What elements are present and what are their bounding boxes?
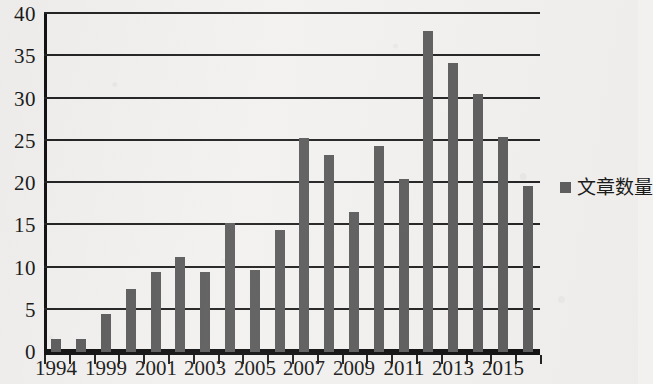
bar [324,155,334,352]
bar [76,339,86,352]
bar [51,339,61,352]
x-tick-label: 2015 [482,358,524,379]
bar [448,63,458,352]
bar [225,223,235,352]
x-tick-label: 2011 [383,358,424,379]
y-tick-label: 10 [14,257,36,278]
bar [523,186,533,352]
y-tick-label: 25 [14,130,36,151]
bars-layer [44,14,540,352]
y-tick-label: 15 [14,215,36,236]
x-tick-label: 2013 [432,358,474,379]
x-tick-label: 2001 [135,358,177,379]
y-axis: 0510152025303540 [0,0,36,384]
bar [151,272,161,352]
bar [200,272,210,352]
bar [423,31,433,352]
bar [126,289,136,352]
bar [299,138,309,352]
bar [399,179,409,352]
plot-area [44,14,540,352]
bar [275,230,285,352]
legend-label: 文章数量 [577,178,653,197]
y-tick-label: 40 [14,4,36,25]
bar [101,314,111,352]
x-tick-label: 2009 [333,358,375,379]
y-tick-label: 35 [14,46,36,67]
x-tick-label: 2005 [234,358,276,379]
x-tick-label: 2003 [184,358,226,379]
square-marker-icon [560,182,571,193]
y-tick-label: 5 [25,299,36,320]
legend: 文章数量 [560,178,653,197]
bar [349,212,359,352]
bar [175,257,185,352]
y-tick-label: 30 [14,88,36,109]
x-tick-label: 1994 [35,358,77,379]
bar [498,137,508,352]
x-tick-label: 1999 [85,358,127,379]
x-tick-label: 2007 [283,358,325,379]
bar [250,270,260,352]
bar [374,146,384,352]
x-axis-labels: 1994199920012003200520072009201120132015 [44,358,564,384]
y-tick-label: 20 [14,173,36,194]
bar [473,94,483,352]
